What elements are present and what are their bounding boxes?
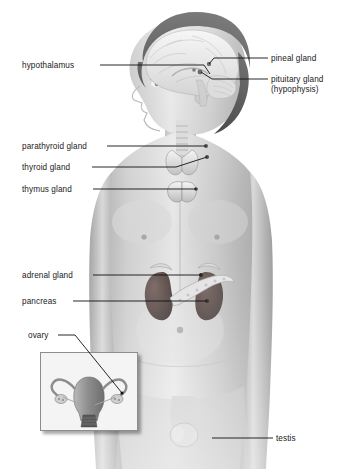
label-adrenal-gland: adrenal gland (22, 271, 73, 282)
label-thymus-gland: thymus gland (22, 185, 72, 196)
right-ovary (111, 395, 123, 404)
label-pituitary-gland: pituitary gland (271, 75, 323, 86)
endocrine-system-figure: hypothalamus pineal gland pituitary glan… (0, 0, 355, 469)
uterus-illustration (41, 353, 137, 430)
label-thyroid-gland: thyroid gland (22, 163, 70, 174)
label-ovary: ovary (28, 331, 49, 342)
label-testis: testis (276, 434, 296, 445)
label-parathyroid-gland: parathyroid gland (22, 142, 87, 153)
label-pancreas: pancreas (22, 297, 56, 308)
label-pituitary-gland-hypophysis: (hypophysis) (271, 85, 319, 96)
left-ovary (55, 395, 67, 404)
label-hypothalamus: hypothalamus (22, 61, 74, 72)
label-pineal-gland: pineal gland (271, 54, 316, 65)
ovary-inset (40, 352, 138, 431)
